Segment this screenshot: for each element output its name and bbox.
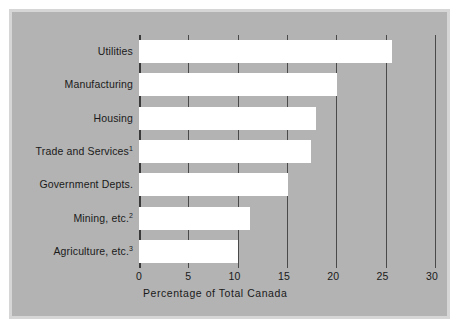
category-label-text: Agriculture, etc.	[53, 245, 129, 257]
category-label-text: Government Depts.	[39, 178, 133, 190]
x-tick-label: 20	[327, 270, 339, 282]
x-axis-tick-labels: 051015202530	[139, 270, 435, 284]
bar	[139, 140, 311, 163]
bar-row	[139, 207, 435, 230]
x-tick-label: 0	[136, 270, 142, 282]
bar	[139, 40, 392, 63]
bar	[139, 240, 238, 263]
category-label: Mining, etc.2	[0, 212, 133, 224]
bar-chart-figure: UtilitiesManufacturingHousingTrade and S…	[0, 0, 458, 331]
x-tick-label: 5	[185, 270, 191, 282]
footnote-marker: 1	[129, 145, 133, 152]
x-tick-label: 10	[229, 270, 241, 282]
footnote-marker: 2	[129, 211, 133, 218]
category-label-text: Mining, etc.	[73, 212, 129, 224]
category-label-text: Manufacturing	[65, 78, 134, 90]
bar	[139, 173, 288, 196]
category-label: Manufacturing	[0, 78, 133, 90]
bar	[139, 207, 250, 230]
category-label: Trade and Services1	[0, 145, 133, 157]
bar-row	[139, 140, 435, 163]
category-label-text: Utilities	[98, 45, 133, 57]
x-tick-label: 15	[278, 270, 290, 282]
category-label: Utilities	[0, 45, 133, 57]
bar-row	[139, 240, 435, 263]
bar-row	[139, 107, 435, 130]
bar-row	[139, 40, 435, 63]
category-label: Government Depts.	[0, 178, 133, 190]
category-label: Housing	[0, 112, 133, 124]
category-label: Agriculture, etc.3	[0, 245, 133, 257]
x-tick-label: 30	[426, 270, 438, 282]
x-tick-label: 25	[377, 270, 389, 282]
bar-row	[139, 73, 435, 96]
category-label-text: Housing	[93, 112, 133, 124]
bar	[139, 107, 316, 130]
plot-area	[139, 35, 435, 268]
bar-row	[139, 173, 435, 196]
chart-panel: UtilitiesManufacturingHousingTrade and S…	[12, 12, 447, 316]
bar	[139, 73, 337, 96]
footnote-marker: 3	[129, 244, 133, 251]
chart-frame: UtilitiesManufacturingHousingTrade and S…	[9, 9, 450, 319]
gridline-30	[435, 35, 436, 268]
x-axis-title: Percentage of Total Canada	[143, 287, 287, 299]
category-axis-labels: UtilitiesManufacturingHousingTrade and S…	[12, 35, 133, 268]
category-label-text: Trade and Services	[36, 145, 129, 157]
